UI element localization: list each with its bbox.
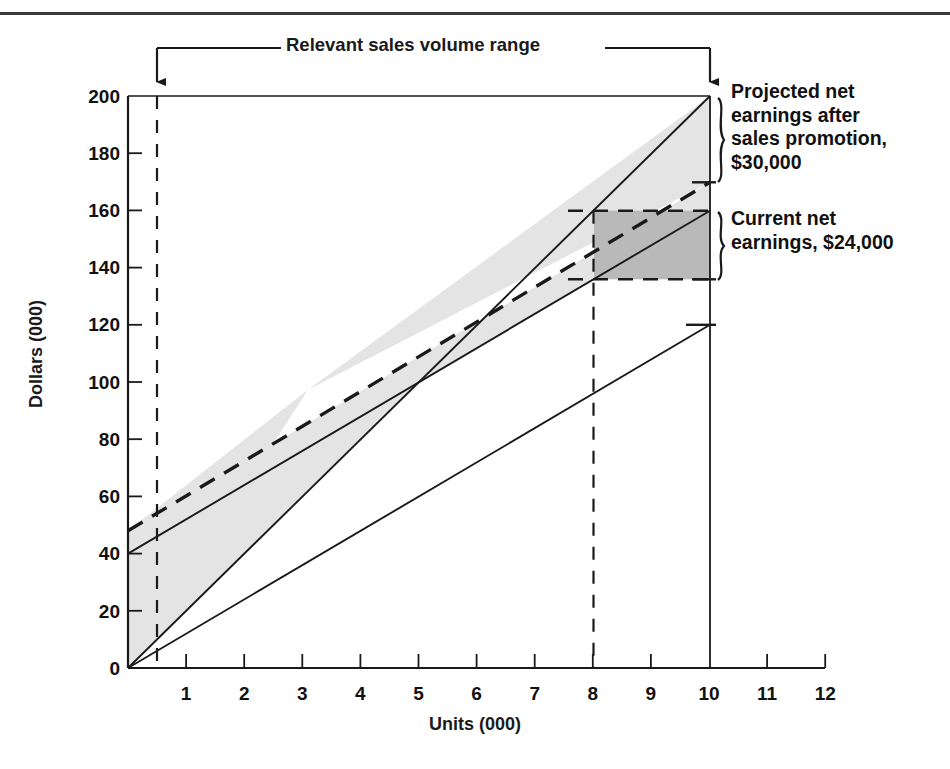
annotation-projected-net-earnings: Projected net earnings after sales promo… — [731, 80, 946, 174]
y-axis-label-wrapper: Dollars (000) — [26, 300, 47, 408]
ytick-180: 180 — [88, 143, 120, 164]
ytick-120: 120 — [88, 314, 120, 335]
annotation-current-net-earnings: Current net earnings, $24,000 — [731, 207, 946, 254]
xtick-5: 5 — [413, 683, 424, 704]
y-axis-label: Dollars (000) — [26, 300, 47, 408]
xtick-11: 11 — [757, 683, 778, 704]
ytick-200: 200 — [88, 86, 120, 107]
series-promo-total-cost-line — [128, 182, 710, 530]
xtick-1: 1 — [181, 683, 192, 704]
x-axis-tick-labels: 1 2 3 4 5 6 7 8 9 10 11 12 — [181, 683, 836, 704]
xtick-3: 3 — [297, 683, 308, 704]
x-axis-ticks — [186, 654, 825, 668]
brace-current-net-earnings — [718, 212, 724, 280]
ytick-20: 20 — [99, 601, 120, 622]
ytick-40: 40 — [99, 543, 120, 564]
ytick-100: 100 — [88, 372, 120, 393]
ytick-60: 60 — [99, 486, 120, 507]
ytick-140: 140 — [88, 257, 120, 278]
xtick-8: 8 — [588, 683, 599, 704]
ytick-80: 80 — [99, 429, 120, 450]
xtick-10: 10 — [698, 683, 719, 704]
x-axis-label: Units (000) — [0, 714, 950, 735]
y-axis-tick-labels: 200 180 160 140 120 100 80 60 40 20 0 — [88, 86, 120, 679]
relevant-range-caption: Relevant sales volume range — [282, 34, 544, 56]
xtick-7: 7 — [529, 683, 540, 704]
brace-projected-net-earnings — [718, 98, 724, 182]
ytick-160: 160 — [88, 200, 120, 221]
xtick-9: 9 — [646, 683, 657, 704]
xtick-2: 2 — [239, 683, 250, 704]
xtick-12: 12 — [815, 683, 836, 704]
xtick-6: 6 — [471, 683, 482, 704]
xtick-4: 4 — [355, 683, 366, 704]
series-total-cost-line — [128, 211, 710, 554]
ytick-0: 0 — [109, 658, 120, 679]
